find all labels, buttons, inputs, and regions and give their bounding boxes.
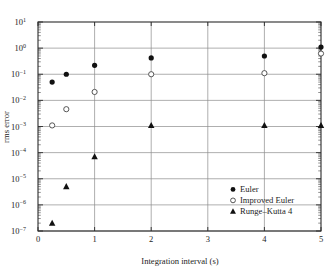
- y-tick-label-exponent: −3: [20, 121, 26, 127]
- x-tick-label: 1: [92, 234, 96, 244]
- x-tick-label: 0: [36, 234, 40, 244]
- x-tick-label: 4: [262, 234, 267, 244]
- data-point-open-circle: [262, 71, 267, 76]
- y-tick-label-exponent: −1: [20, 69, 26, 75]
- y-tick-label-exponent: −5: [20, 173, 26, 179]
- data-point-filled-circle: [149, 55, 154, 60]
- y-tick-label-exponent: −2: [20, 95, 26, 101]
- data-point-open-circle: [92, 89, 97, 94]
- scatter-plot: 10110010−110−210−310−410−510−610−7 01234…: [0, 0, 336, 271]
- legend-marker-open-circle: [231, 198, 236, 203]
- data-point-filled-circle: [64, 72, 69, 77]
- y-tick-label-exponent: 0: [23, 43, 26, 49]
- y-tick-label-exponent: −6: [20, 199, 26, 205]
- data-point-open-circle: [64, 107, 69, 112]
- plot-background: [0, 0, 336, 271]
- legend-marker-filled-circle: [231, 187, 236, 192]
- x-tick-label: 5: [319, 234, 323, 244]
- y-axis-label: rms error: [1, 111, 11, 143]
- y-tick-label-exponent: 1: [23, 17, 26, 23]
- x-tick-label: 3: [206, 234, 210, 244]
- y-tick-label-exponent: −7: [20, 226, 26, 232]
- figure-container: 10110010−110−210−310−410−510−610−7 01234…: [0, 0, 336, 271]
- data-point-open-circle: [149, 72, 154, 77]
- y-tick-label-exponent: −4: [20, 147, 26, 153]
- legend-label: Runge–Kutta 4: [240, 206, 293, 216]
- legend-label: Euler: [240, 184, 259, 194]
- x-tick-label: 2: [149, 234, 153, 244]
- legend-label: Improved Euler: [240, 195, 294, 205]
- data-point-filled-circle: [318, 44, 323, 49]
- data-point-filled-circle: [92, 63, 97, 68]
- x-axis-label: Integration interval (s): [141, 256, 218, 266]
- data-point-open-circle: [50, 123, 55, 128]
- data-point-filled-circle: [262, 53, 267, 58]
- data-point-open-circle: [318, 51, 323, 56]
- data-point-filled-circle: [50, 80, 55, 85]
